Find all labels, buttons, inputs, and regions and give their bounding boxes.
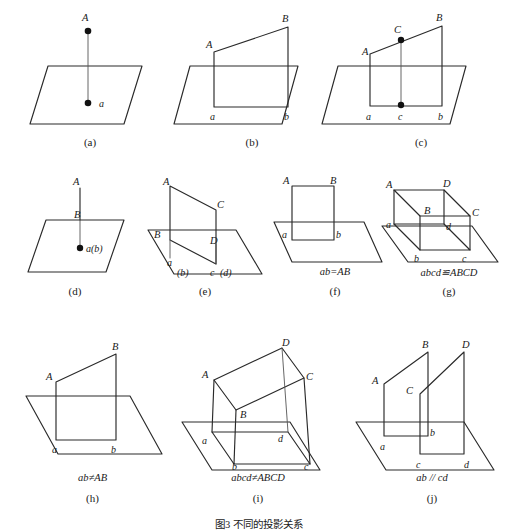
label-point-c: c [210,267,215,278]
panel-caption-g: (g) [382,285,516,297]
ground-plane-j [356,422,494,470]
label-point-b: b [438,111,443,122]
panel-d: A B a(b) [14,172,144,284]
label-point-A: A [45,371,53,382]
label-point-a: a [167,257,172,268]
label-point-a: a [380,441,385,452]
label-point-b: b [414,253,419,264]
label-point-B: B [282,13,289,24]
label-point-B: B [424,205,431,216]
label-point-ab: a(b) [86,243,103,255]
ground-plane-d [28,220,124,272]
label-point-B: B [112,341,119,352]
panel-j: A B C D a b c d [348,336,516,470]
label-point-a: a [282,229,287,240]
label-point-C: C [306,371,314,382]
ground-plane-h [26,396,162,454]
label-point-A: A [371,375,379,386]
panel-caption-j: (j) [348,492,516,504]
label-point-D: D [281,337,290,348]
vertical-plane-h [56,354,116,440]
label-point-A: A [385,179,393,190]
label-point-b: b [232,461,237,472]
label-point-D: D [442,178,451,189]
upper-face-ABCD [394,190,470,216]
panel-g: A B C D a b c d [386,174,516,274]
label-point-C: C [394,24,402,35]
panel-caption-h: (h) [10,492,175,504]
panel-caption-b: (b) [172,136,332,148]
label-point-A: A [205,39,213,50]
label-point-A: A [282,175,290,186]
ground-plane-c [322,66,466,124]
label-point-d: (d) [220,267,232,279]
edge-Aa [212,380,214,432]
label-point-b: (b) [177,267,189,279]
label-point-c: c [462,253,467,264]
lower-face-abcd [394,224,470,250]
point-C-dot [398,37,404,43]
label-point-b: b [111,444,116,455]
panel-caption-e: (e) [140,285,270,297]
label-point-C: C [217,199,225,210]
panel-caption-a: (a) [10,136,170,148]
figure-title: 图3 不同的投影关系 [0,516,518,531]
panel-relation-g: abcd≌ABCD [380,266,518,278]
vertical-plane-e [170,186,216,264]
ground-plane-i [182,422,320,470]
vertical-plane-f [292,186,334,240]
label-point-b: b [430,427,435,438]
label-point-a: a [366,111,371,122]
label-point-B: B [154,229,161,240]
label-point-a: a [386,219,391,230]
label-point-D: D [461,339,470,350]
label-point-a: a [52,444,57,455]
ground-plane-e [148,230,262,274]
label-point-d: d [278,433,284,444]
panel-e: A B C D a (b) c (d) [146,174,286,286]
upper-face-ABCD [214,348,304,410]
label-point-B: B [74,209,81,220]
ground-plane-a [30,66,142,124]
point-c-dot [398,102,404,108]
label-point-b: b [284,111,289,122]
label-point-B: B [240,409,247,420]
label-point-c: c [416,459,421,470]
panel-f: A B a b [272,174,398,274]
lower-face-abcd [212,432,310,464]
panel-i: A B C D a b c d [172,336,344,470]
panel-caption-f: (f) [272,285,398,297]
ground-plane-f [274,222,382,262]
panel-relation-j: ab // cd [348,472,516,483]
label-point-A: A [72,176,80,187]
label-point-a: a [202,435,207,446]
panel-c: A B C a b c [330,4,510,136]
point-ab-dot [77,245,83,251]
label-point-b: b [336,229,341,240]
panel-relation-i: abcd≠ABCD [172,472,344,483]
label-point-c: c [398,111,403,122]
label-point-B: B [436,12,443,23]
panel-b: A B a b [172,4,332,136]
label-point-A: A [361,46,369,57]
edge-Dd [282,348,288,432]
point-A-dot [85,28,92,35]
label-point-A: A [162,176,170,187]
panel-relation-h: ab≠AB [10,472,175,483]
panel-caption-c: (c) [336,136,506,148]
panel-a: A a [10,4,170,136]
label-point-A: A [201,369,209,380]
label-point-A: A [81,12,89,23]
label-point-a: a [99,98,104,109]
label-point-C: C [472,207,480,218]
label-point-B: B [330,175,337,186]
edge-Bb [234,410,236,464]
panel-caption-d: (d) [10,285,140,297]
label-point-d: d [464,459,470,470]
label-point-C: C [406,385,414,396]
label-point-D: D [209,235,218,246]
ground-plane-b [174,66,298,124]
label-point-c: c [304,461,309,472]
label-point-B: B [422,339,429,350]
